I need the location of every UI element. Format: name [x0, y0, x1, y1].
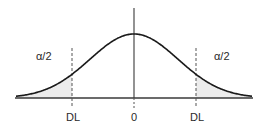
right-limit-label: DL — [190, 112, 204, 123]
center-label: 0 — [131, 112, 137, 123]
left-tail-label: α/2 — [36, 51, 52, 62]
left-limit-label: DL — [66, 112, 80, 123]
right-tail-label: α/2 — [214, 51, 230, 62]
